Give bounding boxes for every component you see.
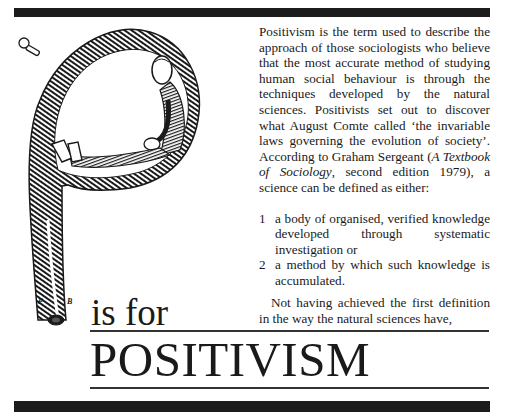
- definition-list: 1a body of organised, verified knowledge…: [259, 211, 490, 289]
- top-decorative-bar: [14, 8, 490, 17]
- illustrator-initial-left: P: [38, 297, 43, 306]
- illustrator-initial-right: B: [67, 297, 72, 306]
- tap-icon: [19, 38, 40, 56]
- list-item: 2a method by which such knowledge is acc…: [259, 257, 490, 288]
- heading-prefix: is for: [91, 294, 168, 332]
- heading-rule-bottom: [90, 387, 489, 389]
- second-paragraph: Not having achieved the first definition…: [259, 295, 490, 326]
- list-item: 1a body of organised, verified knowledge…: [259, 211, 490, 258]
- body-column: Positivism is the term used to describe …: [259, 24, 490, 289]
- page-title: POSITIVISM: [90, 336, 370, 384]
- bottom-decorative-bar: [14, 401, 490, 412]
- intro-paragraph: Positivism is the term used to describe …: [259, 24, 490, 196]
